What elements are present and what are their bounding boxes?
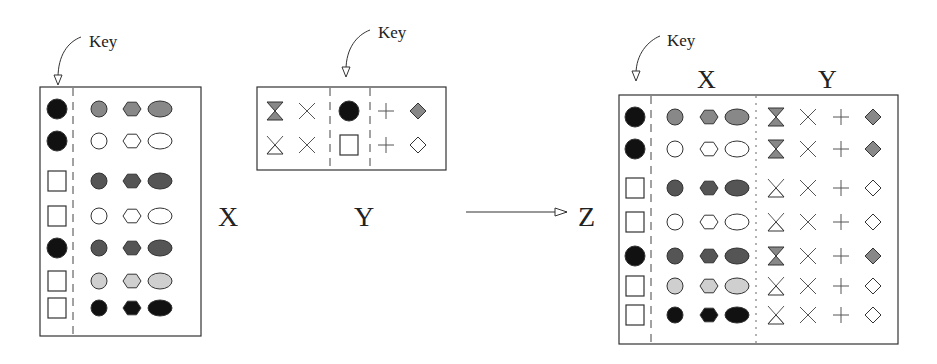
circle-icon (667, 180, 683, 196)
circle-icon (91, 240, 107, 256)
hexagon-icon (123, 241, 141, 255)
circle-icon (91, 133, 107, 149)
empty-square-icon (626, 305, 644, 325)
hexagon-icon (123, 174, 141, 188)
filled-circle-icon (47, 238, 67, 258)
circle-icon (667, 278, 683, 294)
circle-icon (91, 273, 107, 289)
ellipse-icon (148, 133, 172, 149)
empty-square-icon (626, 178, 644, 198)
circle-icon (667, 214, 683, 230)
ellipse-icon (725, 278, 749, 294)
hexagon-icon (700, 142, 718, 156)
ellipse-icon (148, 300, 172, 316)
empty-square-icon (626, 212, 644, 232)
ellipse-icon (148, 208, 172, 224)
table-x (40, 87, 201, 336)
ellipse-icon (725, 109, 749, 125)
key-callout-x: Key (54, 32, 118, 85)
circle-icon (91, 101, 107, 117)
hexagon-icon (700, 181, 718, 195)
hexagon-icon (700, 110, 718, 124)
hexagon-icon (123, 134, 141, 148)
circle-icon (91, 173, 107, 189)
empty-square-icon (626, 276, 644, 296)
hexagon-icon (123, 209, 141, 223)
empty-square-icon (48, 271, 66, 291)
merge-diagram: Key X Key Y Z Key X Y (0, 0, 937, 364)
circle-icon (91, 300, 107, 316)
hexagon-icon (123, 102, 141, 116)
circle-icon (91, 208, 107, 224)
key-label-y: Key (378, 23, 407, 42)
table-z (619, 95, 898, 344)
table-y-label: Y (354, 201, 374, 232)
ellipse-icon (148, 240, 172, 256)
ellipse-icon (725, 307, 749, 323)
ellipse-icon (148, 173, 172, 189)
key-callout-y: Key (342, 23, 407, 77)
hexagon-icon (700, 215, 718, 229)
hexagon-icon (700, 249, 718, 263)
circle-icon (667, 141, 683, 157)
hexagon-icon (700, 308, 718, 322)
circle-icon (667, 307, 683, 323)
filled-circle-icon (625, 107, 645, 127)
ellipse-icon (725, 214, 749, 230)
ellipse-icon (725, 180, 749, 196)
hexagon-icon (700, 279, 718, 293)
key-label-x: Key (89, 32, 118, 51)
key-callout-z: Key (632, 31, 696, 81)
empty-square-icon (48, 206, 66, 226)
hexagon-icon (123, 274, 141, 288)
filled-circle-icon (47, 99, 67, 119)
table-x-label: X (218, 201, 238, 232)
circle-icon (667, 109, 683, 125)
filled-circle-icon (339, 101, 359, 121)
filled-circle-icon (47, 131, 67, 151)
ellipse-icon (148, 101, 172, 117)
ellipse-icon (148, 273, 172, 289)
z-header-x: X (697, 65, 716, 94)
empty-square-icon (48, 298, 66, 318)
filled-circle-icon (625, 139, 645, 159)
table-y (257, 87, 446, 170)
z-header-y: Y (818, 65, 837, 94)
circle-icon (667, 248, 683, 264)
empty-square-icon (48, 171, 66, 191)
ellipse-icon (725, 141, 749, 157)
key-label-z: Key (667, 31, 696, 50)
hexagon-icon (123, 301, 141, 315)
filled-circle-icon (625, 246, 645, 266)
ellipse-icon (725, 248, 749, 264)
empty-square-icon (340, 135, 358, 155)
table-z-label: Z (578, 201, 595, 232)
